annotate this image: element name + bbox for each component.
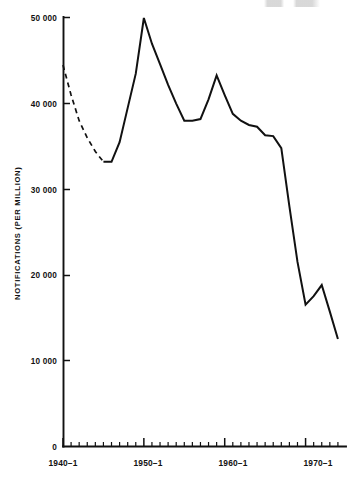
y-tick-label-0: 0 [52,443,57,452]
x-tick-label-1950: 1950–1 [133,458,162,468]
x-tick-label-1960: 1960–1 [218,458,247,468]
chart-figure: NOTIFICATIONS (PER MILLION) 50 000 40 00… [0,0,354,478]
y-tick-label-10000: 10 000 [31,357,57,366]
x-tick-marks [63,438,338,446]
series-line-recorded [103,18,337,339]
x-tick-label-1970: 1970–1 [303,458,332,468]
y-tick-label-30000: 30 000 [31,186,57,195]
y-tick-label-40000: 40 000 [31,100,57,109]
series-line-estimated [63,65,103,162]
line-chart-plot: NOTIFICATIONS (PER MILLION) 50 000 40 00… [0,0,354,478]
x-tick-label-1940: 1940–1 [48,458,77,468]
y-tick-label-50000: 50 000 [31,14,57,23]
y-axis-label: NOTIFICATIONS (PER MILLION) [13,167,22,301]
y-tick-label-20000: 20 000 [31,271,57,280]
